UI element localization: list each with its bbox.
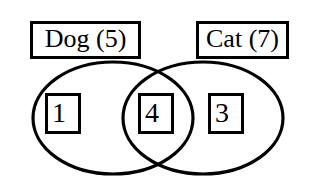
dog-set-label-text: Dog (5) xyxy=(45,26,127,54)
dog-only-count-box: 1 xyxy=(45,93,81,134)
cat-set-label-box: Cat (7) xyxy=(196,21,289,59)
venn-diagram: Dog (5) Cat (7) 1 4 3 xyxy=(0,0,312,187)
cat-set-label-text: Cat (7) xyxy=(206,26,279,54)
cat-only-count-box: 3 xyxy=(208,93,244,134)
intersection-count-text: 4 xyxy=(141,99,159,129)
dog-only-count-text: 1 xyxy=(48,99,66,129)
intersection-count-box: 4 xyxy=(138,93,174,134)
dog-set-label-box: Dog (5) xyxy=(30,21,141,59)
cat-only-count-text: 3 xyxy=(211,99,229,129)
